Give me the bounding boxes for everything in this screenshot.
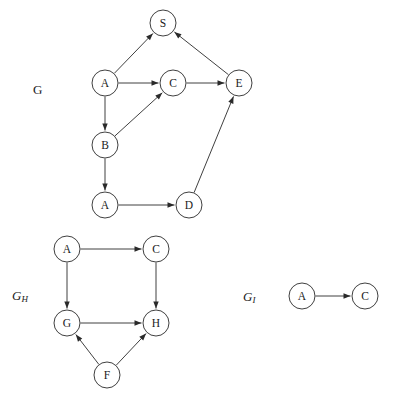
arrowhead-C-to-E xyxy=(218,80,225,85)
node-G-S[interactable]: S xyxy=(150,10,176,36)
arrowhead-F-to-G xyxy=(76,334,82,341)
node-G-A1[interactable]: A xyxy=(92,70,118,96)
arrowhead-E-to-S xyxy=(174,32,181,38)
node-GH-F[interactable]: F xyxy=(94,362,120,388)
node-GH-G[interactable]: G xyxy=(54,310,80,336)
graph-label-GI: GI xyxy=(243,289,255,305)
arrowhead-A-to-C xyxy=(135,246,142,251)
node-GI-A[interactable]: A xyxy=(289,283,315,309)
edge-B-to-C xyxy=(115,93,162,136)
node-GI-C[interactable]: C xyxy=(352,283,378,309)
arrowhead-A1-to-C xyxy=(152,80,159,85)
node-G-B[interactable]: B xyxy=(92,132,118,158)
node-label-G-E: E xyxy=(235,77,242,89)
arrowhead-B-to-A2 xyxy=(102,184,107,191)
node-label-GI-C: C xyxy=(361,290,369,302)
graph-label-base: G xyxy=(12,288,21,303)
arrowhead-C-to-H xyxy=(153,302,158,309)
node-layer-G: SACEBAD xyxy=(92,10,252,218)
graph-GH: ACGHF xyxy=(54,236,169,388)
node-label-G-D: D xyxy=(185,199,193,211)
edge-layer-GH xyxy=(64,246,158,365)
node-label-GH-H: H xyxy=(152,317,160,329)
edge-E-to-S xyxy=(174,32,228,75)
node-label-G-S: S xyxy=(160,17,166,29)
arrowhead-A-to-C xyxy=(344,293,351,298)
arrowhead-G-to-H xyxy=(135,320,142,325)
node-label-G-A1: A xyxy=(101,77,110,89)
node-label-GH-F: F xyxy=(104,369,110,381)
edge-layer-G xyxy=(102,32,233,208)
graph-label-GH: GH xyxy=(12,288,28,304)
node-label-GH-A: A xyxy=(63,243,72,255)
edge-A1-to-S xyxy=(114,33,153,73)
arrowhead-D-to-E xyxy=(228,96,233,104)
node-GH-H[interactable]: H xyxy=(143,310,169,336)
node-label-GH-G: G xyxy=(63,317,71,329)
graph-GI: AC xyxy=(289,283,378,309)
edge-D-to-E xyxy=(194,96,233,192)
arrowhead-A1-to-B xyxy=(102,124,107,131)
graph-label-subscript: H xyxy=(21,294,28,304)
graph-label-base: G xyxy=(243,289,252,304)
node-G-C[interactable]: C xyxy=(160,70,186,96)
node-layer-GH: ACGHF xyxy=(54,236,169,388)
node-label-GH-C: C xyxy=(152,243,160,255)
node-label-G-B: B xyxy=(101,139,109,151)
graph-canvas: SACEBADACGHFAC xyxy=(0,0,411,397)
node-GH-A[interactable]: A xyxy=(54,236,80,262)
graph-label-G: G xyxy=(33,82,42,98)
node-GH-C[interactable]: C xyxy=(143,236,169,262)
graph-G: SACEBAD xyxy=(92,10,252,218)
node-G-E[interactable]: E xyxy=(226,70,252,96)
graph-label-base: G xyxy=(33,82,42,97)
node-label-GI-A: A xyxy=(298,290,307,302)
graph-label-subscript: I xyxy=(252,295,255,305)
arrowhead-A-to-G xyxy=(64,302,69,309)
arrowhead-A2-to-D xyxy=(168,202,175,207)
edge-layer-GI xyxy=(316,293,351,298)
node-label-G-C: C xyxy=(169,77,177,89)
node-G-D[interactable]: D xyxy=(176,192,202,218)
node-G-A2[interactable]: A xyxy=(92,192,118,218)
node-label-G-A2: A xyxy=(101,199,110,211)
